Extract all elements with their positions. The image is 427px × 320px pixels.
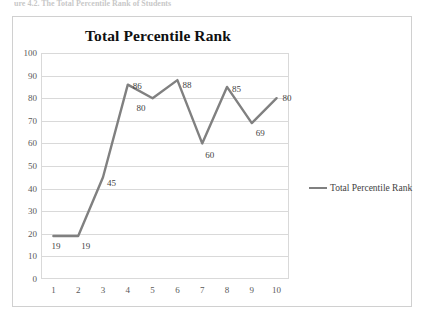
- x-axis-tick-6: 6: [167, 286, 187, 295]
- y-axis-tick-70: 70: [13, 117, 37, 126]
- data-label-4: 86: [133, 82, 142, 91]
- x-axis-tick-5: 5: [143, 286, 163, 295]
- chart-title: Total Percentile Rank: [13, 27, 303, 45]
- x-axis-tick-2: 2: [68, 286, 88, 295]
- y-axis-tick-30: 30: [13, 207, 37, 216]
- data-label-6: 88: [182, 81, 191, 90]
- legend-label-total-percentile-rank: Total Percentile Rank: [330, 183, 412, 193]
- y-axis-tick-40: 40: [13, 185, 37, 194]
- legend-line-swatch: [309, 187, 327, 189]
- data-label-9: 69: [256, 129, 265, 138]
- data-label-2: 19: [81, 242, 90, 251]
- y-axis-tick-100: 100: [13, 49, 37, 58]
- x-axis-tick-9: 9: [242, 286, 262, 295]
- chart-legend: Total Percentile Rank: [309, 183, 412, 193]
- data-label-10: 80: [283, 94, 292, 103]
- x-axis-tick-10: 10: [267, 286, 287, 295]
- data-label-1: 19: [51, 242, 60, 251]
- plot-area: 19194586808860856980: [41, 53, 289, 279]
- x-axis-tick-8: 8: [217, 286, 237, 295]
- y-axis-tick-10: 10: [13, 252, 37, 261]
- x-axis-tick-3: 3: [93, 286, 113, 295]
- data-label-7: 60: [205, 151, 214, 160]
- chart-frame: Total Percentile Rank 191945868088608569…: [12, 16, 412, 307]
- x-axis-tick-4: 4: [118, 286, 138, 295]
- y-axis-tick-60: 60: [13, 139, 37, 148]
- x-axis-tick-1: 1: [43, 286, 63, 295]
- y-axis-tick-90: 90: [13, 72, 37, 81]
- y-axis-tick-80: 80: [13, 94, 37, 103]
- y-axis-tick-20: 20: [13, 230, 37, 239]
- data-label-8: 85: [232, 85, 241, 94]
- data-label-3: 45: [107, 179, 116, 188]
- clipped-figure-caption: ure 4.2. The Total Percentile Rank of St…: [14, 0, 274, 7]
- y-axis-tick-0: 0: [13, 275, 37, 284]
- series-line-total-percentile-rank: [41, 53, 289, 279]
- data-label-5: 80: [137, 104, 146, 113]
- y-axis-tick-50: 50: [13, 162, 37, 171]
- x-axis-tick-7: 7: [192, 286, 212, 295]
